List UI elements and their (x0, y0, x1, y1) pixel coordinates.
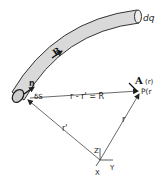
vector-potential-diagram: dq B n δS r - r' = R r' r P(r A (r) Z Y … (0, 0, 168, 177)
label-P: P(r (141, 87, 152, 96)
label-A-arg: (r) (145, 78, 154, 86)
label-x: X (95, 169, 100, 177)
vector-r (100, 94, 139, 160)
label-A: A (134, 75, 143, 86)
tube-end-cap (135, 10, 142, 23)
label-dS: δS (34, 93, 43, 101)
label-R: r - r' = R (70, 92, 105, 101)
label-dq: dq (143, 13, 155, 23)
label-y: Y (109, 164, 115, 172)
label-r-prime: r' (62, 124, 68, 133)
label-z: Z (94, 147, 99, 155)
axis-x (96, 160, 100, 166)
label-n: n (29, 79, 35, 88)
